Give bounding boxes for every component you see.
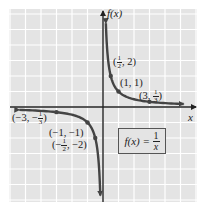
y-axis-label: f(x) xyxy=(107,8,122,19)
data-point xyxy=(85,120,89,124)
equation-lhs: f(x) = xyxy=(124,135,149,147)
point-label-neg-half-neg2: (−12, −2) xyxy=(52,138,87,153)
point-label-3-third: (3, 13) xyxy=(139,89,162,104)
point-label-half-2: (12, 2) xyxy=(113,55,136,70)
data-point xyxy=(116,89,120,93)
point-label-neg1-neg1: (−1, −1) xyxy=(49,128,84,139)
x-axis-label: x xyxy=(188,112,193,123)
point-label-1-1: (1, 1) xyxy=(120,78,143,89)
point-label-neg3-neg-third: (−3, −13) xyxy=(12,111,47,126)
data-point xyxy=(93,136,97,140)
data-point xyxy=(109,74,113,78)
data-point xyxy=(54,110,58,114)
graph-canvas xyxy=(0,0,205,214)
equation-box: f(x) = 1x xyxy=(118,128,166,154)
